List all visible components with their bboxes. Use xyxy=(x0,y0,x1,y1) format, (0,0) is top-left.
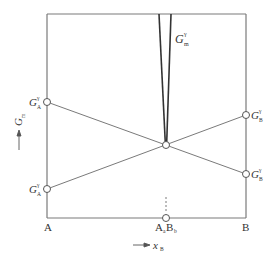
label-GA-upper: G γ A xyxy=(29,95,41,110)
x-axis-subscript: B xyxy=(160,246,164,252)
x-axis-arrow-icon xyxy=(133,243,150,247)
intersection-marker xyxy=(163,142,170,149)
y-axis-label: G m xyxy=(12,113,26,126)
label-GB-lower: G γ B xyxy=(251,167,263,182)
gamma-label-sup: γ xyxy=(183,31,187,37)
gamma-label-sub: m xyxy=(184,41,189,47)
point-GB-lower-marker xyxy=(243,171,250,178)
label-GB-upper: G γ B xyxy=(251,108,263,123)
x-axis-symbol: x xyxy=(152,239,158,251)
label-compound-AaBb: A a B b xyxy=(155,221,177,234)
label-GA-upper-sup: γ xyxy=(36,95,40,101)
y-axis-arrow-icon xyxy=(17,130,21,150)
label-GA-lower-sup: γ xyxy=(36,182,40,188)
wedge-right-branch xyxy=(167,14,171,143)
point-GA-upper-marker xyxy=(44,99,51,106)
label-GA-upper-symbol: G xyxy=(29,96,37,108)
line-lower-A-to-upper-B xyxy=(47,115,246,189)
gamma-wedge-curve xyxy=(159,14,171,143)
x-axis-label: x B xyxy=(152,239,164,252)
point-GB-upper-marker xyxy=(243,112,250,119)
label-GB-upper-sub: B xyxy=(259,117,263,123)
gamma-curve-label: G γ m xyxy=(175,31,189,47)
label-B: B xyxy=(242,221,249,233)
label-GA-upper-sub: A xyxy=(37,104,41,110)
label-GB-upper-symbol: G xyxy=(251,109,259,121)
label-GB-lower-sub: B xyxy=(259,176,263,182)
label-GA-lower-symbol: G xyxy=(29,183,37,195)
free-energy-diagram: G γ m G γ A G γ A G γ B G γ B G m A B A … xyxy=(0,0,275,260)
y-axis-symbol: G xyxy=(12,118,24,126)
label-GB-upper-sup: γ xyxy=(258,108,262,114)
point-GA-lower-marker xyxy=(44,186,51,193)
label-GB-lower-sup: γ xyxy=(258,167,262,173)
compound-B: B xyxy=(166,221,173,233)
label-GA-lower: G γ A xyxy=(29,182,41,197)
y-axis-subscript: m xyxy=(20,113,26,118)
label-GB-lower-symbol: G xyxy=(251,168,259,180)
wedge-left-branch xyxy=(159,14,165,143)
line-upper-A-to-lower-B xyxy=(47,102,246,174)
label-GA-lower-sub: A xyxy=(37,191,41,197)
label-A: A xyxy=(44,221,52,233)
compound-A: A xyxy=(155,221,163,233)
compound-B-sub: b xyxy=(174,228,177,234)
diagram-frame xyxy=(47,14,246,218)
gamma-label-symbol: G xyxy=(175,32,184,46)
